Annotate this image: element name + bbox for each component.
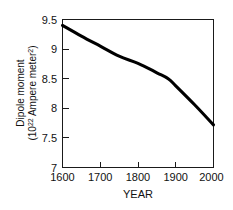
y-tick-label-4: 7.5	[42, 132, 57, 144]
y-axis-tick-labels: 9.5 9 8.5 8 7.5 7	[42, 14, 57, 174]
x-tick-label-1: 1700	[88, 171, 112, 183]
x-tick-label-0: 1600	[50, 171, 74, 183]
x-axis-ticks	[63, 162, 214, 168]
y-axis-units-suffix: )	[27, 45, 38, 48]
y-axis-units-mid: Ampere meter	[27, 52, 38, 118]
y-tick-label-0: 9.5	[42, 14, 57, 26]
y-tick-label-1: 9	[51, 43, 57, 55]
y-axis-title: Dipole moment (1022 Ampere meter2)	[15, 45, 38, 140]
y-axis-ticks	[63, 20, 69, 168]
data-series-line	[63, 25, 214, 124]
x-tick-label-3: 1900	[163, 171, 187, 183]
axes-border	[63, 20, 214, 168]
plot-frame	[63, 20, 214, 168]
y-tick-label-3: 8	[51, 102, 57, 114]
dipole-moment-chart-figure: 9.5 9 8.5 8 7.5 7 1600 1700 1800 1900 20…	[0, 0, 233, 210]
x-axis-tick-labels: 1600 1700 1800 1900 2000	[50, 171, 223, 183]
y-axis-units-exponent: 22	[27, 118, 34, 126]
chart-canvas: 9.5 9 8.5 8 7.5 7 1600 1700 1800 1900 20…	[0, 0, 233, 210]
y-axis-title-line2: (1022 Ampere meter2)	[27, 45, 38, 140]
y-axis-title-line1: Dipole moment	[15, 59, 26, 126]
y-tick-label-2: 8.5	[42, 73, 57, 85]
x-axis-title: YEAR	[123, 188, 153, 200]
x-tick-label-4: 2000	[199, 171, 223, 183]
x-tick-label-2: 1800	[126, 171, 150, 183]
y-axis-units-prefix: (10	[27, 126, 38, 141]
